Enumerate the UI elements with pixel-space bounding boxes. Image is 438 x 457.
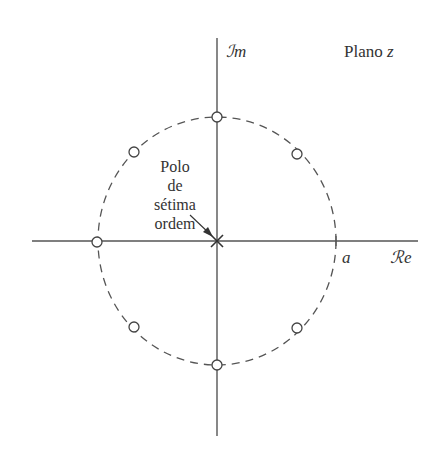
- zero-marker: [129, 147, 139, 157]
- zero-marker: [92, 237, 102, 247]
- zero-marker: [292, 149, 302, 159]
- plane-title: Plano z: [344, 42, 394, 61]
- plane-title-z: z: [386, 42, 394, 61]
- zero-marker: [292, 323, 302, 333]
- real-axis-label: ℛe: [390, 248, 412, 267]
- annotation-line-4: ordem: [155, 215, 196, 232]
- annotation-line-2: de: [167, 177, 182, 194]
- zero-marker: [212, 112, 222, 122]
- zero-marker: [212, 360, 222, 370]
- annotation-line-1: Polo: [160, 158, 189, 175]
- zero-marker: [129, 322, 139, 332]
- imag-axis-label: ℐm: [226, 42, 246, 61]
- radius-label: a: [342, 248, 351, 267]
- pole-zero-plot: ℐm Plano z a ℛe Polo de sétima ordem: [0, 0, 438, 457]
- plane-title-word: Plano: [344, 42, 387, 61]
- annotation-line-3: sétima: [154, 196, 196, 213]
